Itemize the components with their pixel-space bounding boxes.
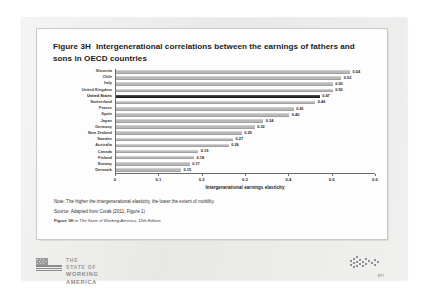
y-axis-label: New Zealand <box>53 131 115 136</box>
bar-value-label: 0.34 <box>263 118 273 124</box>
flag-canton-icon <box>36 258 48 265</box>
y-axis-label: Switzerland <box>53 100 115 105</box>
bar <box>116 82 333 86</box>
figure-title-text: Intergenerational correlations between t… <box>53 42 355 63</box>
x-axis-tick-label: 0 <box>114 177 116 182</box>
bar <box>116 125 255 129</box>
bar-row: 0.15 <box>116 168 375 172</box>
bar <box>116 95 320 99</box>
y-axis-label: Chile <box>53 75 115 80</box>
y-axis-label: Canada <box>53 150 115 155</box>
x-axis-tick-label: 0.2 <box>199 177 205 182</box>
bar-row: 0.19 <box>116 150 375 154</box>
y-axis-label: Germany <box>53 125 115 130</box>
citation-figure: Figure 3H <box>54 218 74 223</box>
bar-value-label: 0.50 <box>333 87 343 93</box>
plot-area: 0.540.520.500.500.470.460.410.400.340.32… <box>115 69 375 173</box>
bar-value-label: 0.52 <box>341 75 351 81</box>
note-line: Note: The higher the intergenerational e… <box>54 197 372 207</box>
bar-value-label: 0.18 <box>194 155 204 161</box>
bar <box>116 138 233 142</box>
brand-line-2: WORKING AMERICA <box>66 271 99 286</box>
bar <box>116 150 198 154</box>
bar-value-label: 0.47 <box>320 93 330 99</box>
x-axis-tick-label: 0.4 <box>285 177 291 182</box>
x-axis-tick-label: 0.6 <box>372 177 378 182</box>
bar <box>116 119 263 123</box>
figure-number: Figure 3H <box>53 42 91 51</box>
bar-row: 0.18 <box>116 156 375 160</box>
bar-value-label: 0.15 <box>181 167 191 173</box>
figure-notes: Note: The higher the intergenerational e… <box>54 197 372 226</box>
y-axis-label: Spain <box>53 112 115 117</box>
bar-value-label: 0.54 <box>350 69 360 75</box>
x-axis-title: Intergenerational earnings elasticity <box>115 185 375 190</box>
epi-logo-icon <box>350 256 384 276</box>
y-axis-label: United Kingdom <box>53 88 115 93</box>
bar <box>116 131 242 135</box>
bar-value-label: 0.50 <box>333 81 343 87</box>
bar-value-label: 0.27 <box>233 136 243 142</box>
y-axis-label: Finland <box>53 156 115 161</box>
bar-value-label: 0.32 <box>255 124 265 130</box>
bar-row: 0.46 <box>116 101 375 105</box>
bar <box>116 162 190 166</box>
bar-value-label: 0.46 <box>315 99 325 105</box>
citation-line: Figure 3H in The State of Working Americ… <box>54 216 372 226</box>
bar-row: 0.27 <box>116 138 375 142</box>
bar-row: 0.50 <box>116 82 375 86</box>
bar-row: 0.34 <box>116 119 375 123</box>
x-axis-tick-label: 0.1 <box>155 177 161 182</box>
y-axis-label: Japan <box>53 119 115 124</box>
bar <box>116 101 315 105</box>
bar-row: 0.41 <box>116 107 375 111</box>
y-axis-label: United States <box>53 94 115 99</box>
bar-value-label: 0.40 <box>289 112 299 118</box>
y-axis-label: Sweden <box>53 137 115 142</box>
citation-book: The State of Working America, 12th Editi… <box>79 218 160 223</box>
bar <box>116 144 229 148</box>
y-axis-label: Australia <box>53 143 115 148</box>
y-axis-label: France <box>53 106 115 111</box>
y-axis-label: Norway <box>53 162 115 167</box>
bar <box>116 113 289 117</box>
bar <box>116 107 294 111</box>
bar-value-label: 0.41 <box>294 106 304 112</box>
bar <box>116 168 181 172</box>
bar-row: 0.32 <box>116 125 375 129</box>
epi-logo-label: EPI <box>378 274 384 278</box>
bar <box>116 89 333 93</box>
bar-value-label: 0.26 <box>229 142 239 148</box>
y-axis-label: Denmark <box>53 168 115 173</box>
bar-value-label: 0.17 <box>190 161 200 167</box>
bar-row: 0.47 <box>116 95 375 99</box>
state-of-working-america-logo: THE STATE OF WORKING AMERICA <box>36 257 82 272</box>
x-axis-tick-label: 0.3 <box>242 177 248 182</box>
bar <box>116 70 350 74</box>
y-axis-label: Italy <box>53 81 115 86</box>
bar-row: 0.52 <box>116 76 375 80</box>
brand-wordmark: THE STATE OF WORKING AMERICA <box>66 257 99 286</box>
figure-card: Figure 3HIntergenerational correlations … <box>36 28 388 240</box>
x-axis-tick-label: 0.5 <box>329 177 335 182</box>
source-line: Source: Adapted from Corak (2011, Figure… <box>54 207 372 217</box>
scanned-page: Figure 3HIntergenerational correlations … <box>22 18 407 280</box>
figure-title: Figure 3HIntergenerational correlations … <box>53 41 369 64</box>
bar-value-label: 0.29 <box>242 130 252 136</box>
bar-row: 0.54 <box>116 70 375 74</box>
y-axis-labels: SloveniaChileItalyUnited KingdomUnited S… <box>53 69 115 173</box>
bar <box>116 76 341 80</box>
y-axis-label: Slovenia <box>53 69 115 74</box>
bar-row: 0.17 <box>116 162 375 166</box>
bar-value-label: 0.19 <box>198 148 208 154</box>
brand-line-1: THE STATE OF <box>66 257 99 271</box>
bar-row: 0.50 <box>116 89 375 93</box>
bar-row: 0.29 <box>116 131 375 135</box>
flag-icon <box>36 258 62 271</box>
bar-row: 0.40 <box>116 113 375 117</box>
bar <box>116 156 194 160</box>
bar-chart: SloveniaChileItalyUnited KingdomUnited S… <box>53 69 375 187</box>
bar-row: 0.26 <box>116 144 375 148</box>
page-footer: THE STATE OF WORKING AMERICA EPI <box>36 254 388 278</box>
